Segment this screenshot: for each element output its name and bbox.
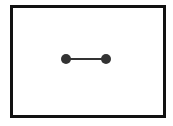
graph-canvas [0,0,173,126]
node-right [101,54,111,64]
node-left [61,54,71,64]
